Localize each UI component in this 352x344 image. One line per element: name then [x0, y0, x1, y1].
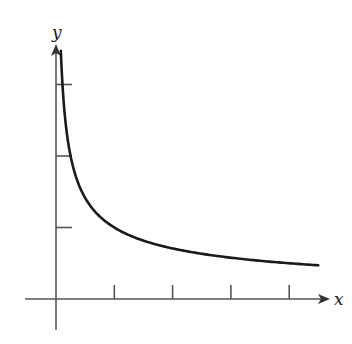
x-ticks	[114, 285, 289, 299]
y-axis-label: y	[51, 22, 62, 42]
function-plot: x y	[0, 0, 352, 344]
curve-line	[61, 51, 319, 265]
axes: x y	[25, 22, 344, 330]
x-axis-label: x	[334, 289, 344, 309]
